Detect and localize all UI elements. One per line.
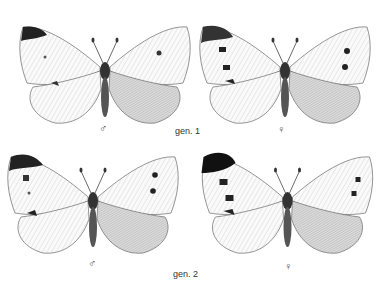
wing-spot (352, 191, 357, 196)
butterfly-illustration (195, 5, 375, 130)
generation-label-gen2: gen. 2 (173, 270, 198, 279)
sex-symbol-gen1-male: ♂ (99, 123, 107, 134)
wing-spot (157, 51, 162, 56)
wing-spot (344, 48, 350, 54)
sex-symbol-gen2-female: ♀ (284, 261, 292, 272)
wing-spot (152, 172, 158, 178)
butterfly-illustration (3, 135, 183, 260)
specimen-gen2-female (195, 135, 380, 260)
specimen-gen2-male (3, 135, 183, 260)
sex-symbol-gen2-male: ♂ (88, 258, 96, 269)
butterfly-illustration (15, 5, 195, 130)
sex-symbol-gen1-female: ♀ (277, 124, 285, 135)
wing-spot (150, 188, 156, 194)
butterfly-illustration (195, 135, 380, 260)
wing-spot (342, 64, 348, 70)
specimen-gen1-male (15, 5, 195, 130)
wing-spot (356, 177, 361, 182)
specimen-gen1-female (195, 5, 375, 130)
